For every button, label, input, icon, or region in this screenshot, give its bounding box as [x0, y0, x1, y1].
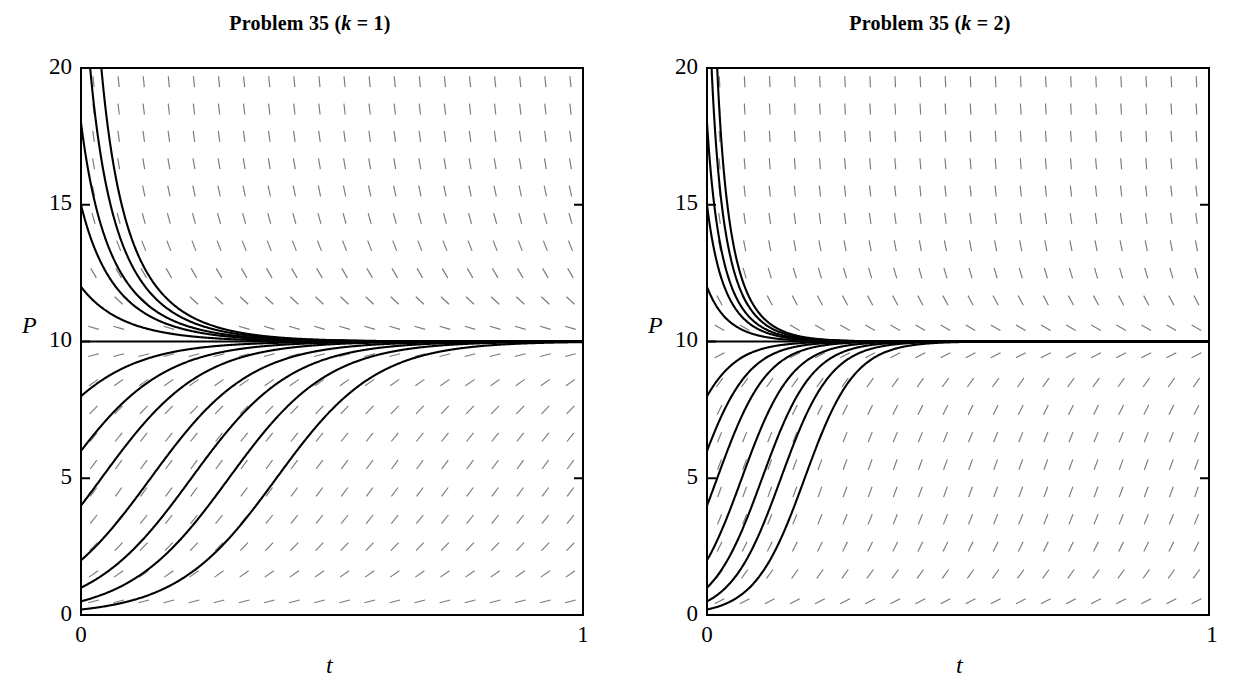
field-tick: [166, 460, 173, 469]
field-tick: [294, 76, 295, 87]
field-tick: [1195, 240, 1197, 251]
field-tick: [840, 599, 850, 604]
field-tick: [341, 515, 348, 524]
field-tick: [966, 325, 976, 330]
field-tick: [441, 297, 449, 305]
field-tick: [191, 460, 198, 469]
field-tick: [1116, 353, 1126, 358]
field-tick: [441, 543, 449, 551]
field-tick: [542, 543, 550, 551]
field-tick: [143, 131, 145, 142]
field-tick: [794, 186, 795, 197]
field-tick: [567, 515, 574, 524]
field-tick: [794, 213, 796, 224]
field-tick: [1118, 378, 1124, 387]
field-tick: [1071, 131, 1072, 142]
yaxis-label-right: P: [648, 312, 663, 339]
field-tick: [1118, 570, 1124, 579]
field-tick: [317, 241, 321, 251]
field-tick: [843, 514, 847, 524]
field-tick: [545, 131, 547, 142]
field-tick: [1095, 213, 1097, 224]
field-tick: [218, 186, 220, 197]
field-tick: [91, 268, 97, 277]
field-tick: [269, 104, 270, 115]
field-tick: [142, 241, 146, 251]
field-tick: [366, 543, 374, 551]
field-tick: [1045, 131, 1046, 142]
field-tick: [319, 76, 320, 87]
field-tick: [792, 296, 797, 306]
field-tick: [1144, 514, 1148, 524]
field-tick: [341, 406, 349, 414]
field-tick: [114, 571, 123, 577]
field-tick: [741, 570, 747, 579]
field-tick: [491, 379, 500, 385]
field-tick: [815, 599, 825, 604]
field-tick: [1119, 487, 1123, 497]
field-tick: [894, 240, 896, 251]
field-tick: [869, 240, 871, 251]
field-tick: [843, 487, 847, 497]
field-tick: [268, 131, 270, 142]
field-tick: [394, 186, 396, 197]
field-tick: [969, 487, 973, 497]
field-tick: [444, 104, 445, 115]
field-tick: [717, 296, 722, 306]
field-tick: [1068, 296, 1073, 306]
field-tick: [1119, 432, 1123, 442]
field-tick: [218, 158, 220, 169]
field-tick: [1141, 353, 1151, 358]
field-tick: [1119, 542, 1124, 552]
field-tick: [1066, 325, 1076, 330]
field-tick: [391, 297, 399, 305]
field-tick: [895, 104, 896, 115]
field-tick: [289, 326, 300, 329]
field-tick: [970, 240, 972, 251]
field-tick: [1069, 459, 1073, 469]
field-tick: [1020, 104, 1021, 115]
field-tick: [1020, 240, 1022, 251]
field-tick: [1019, 514, 1023, 524]
field-tick: [719, 76, 720, 87]
field-tick: [291, 433, 298, 442]
field-tick: [890, 325, 900, 330]
field-tick: [1043, 378, 1049, 387]
field-tick: [994, 459, 998, 469]
field-tick: [243, 186, 245, 197]
field-tick: [945, 131, 946, 142]
field-tick: [1144, 296, 1149, 306]
field-tick: [366, 460, 373, 469]
field-tick: [845, 131, 846, 142]
field-tick: [314, 600, 325, 603]
field-tick: [264, 326, 275, 329]
field-tick: [518, 241, 522, 251]
field-tick: [566, 297, 574, 305]
field-tick: [218, 104, 219, 115]
field-tick: [544, 158, 546, 169]
field-tick: [394, 158, 396, 169]
field-tick: [819, 213, 821, 224]
field-tick: [394, 131, 396, 142]
field-tick: [515, 326, 526, 329]
field-tick: [90, 515, 97, 524]
field-tick: [945, 186, 946, 197]
field-tick: [967, 378, 973, 387]
field-tick: [143, 76, 144, 87]
field-tick: [740, 599, 750, 604]
field-tick: [165, 406, 173, 414]
field-tick: [267, 241, 271, 251]
field-tick: [1066, 599, 1076, 604]
field-tick: [113, 354, 124, 357]
field-tick: [567, 433, 574, 442]
field-tick: [440, 354, 451, 357]
field-tick: [842, 296, 847, 306]
xtick-label-0-right: 0: [692, 622, 722, 648]
field-tick: [565, 600, 576, 603]
field-tick: [341, 297, 349, 305]
field-tick: [1041, 353, 1051, 358]
field-tick: [1196, 158, 1197, 169]
field-tick: [1091, 325, 1101, 330]
field-tick: [870, 76, 871, 87]
field-tick: [1095, 268, 1098, 279]
